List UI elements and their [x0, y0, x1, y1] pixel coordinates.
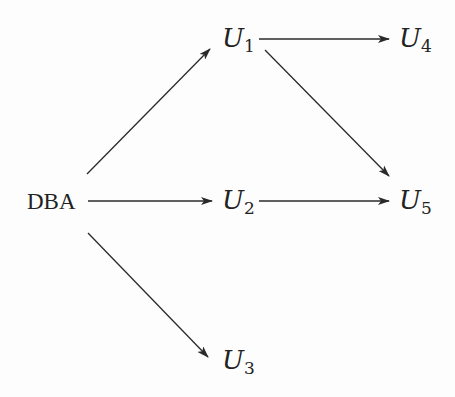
node-u2-subscript: 2 [244, 198, 255, 218]
node-u1-subscript: 1 [244, 36, 255, 56]
node-u4-subscript: 4 [421, 36, 432, 56]
node-u3-subscript: 3 [244, 358, 255, 378]
edge-dba-u1 [87, 49, 210, 174]
node-u5-base: U [399, 185, 421, 215]
edge-u1-u5 [265, 50, 389, 176]
edge-dba-u3 [88, 233, 208, 357]
node-u4-base: U [399, 23, 421, 53]
node-u2-base: U [222, 185, 244, 215]
node-u3: U3 [222, 347, 255, 377]
node-dba-label: DBA [27, 189, 76, 214]
authorization-graph: DBA U1 U2 U3 U4 U5 [0, 0, 455, 397]
node-u3-base: U [222, 345, 244, 375]
node-u2: U2 [222, 187, 255, 217]
node-u1: U1 [222, 25, 255, 55]
node-u5-subscript: 5 [421, 198, 432, 218]
node-u4: U4 [399, 25, 432, 55]
node-u1-base: U [222, 23, 244, 53]
node-dba: DBA [27, 190, 76, 213]
node-u5: U5 [399, 187, 432, 217]
